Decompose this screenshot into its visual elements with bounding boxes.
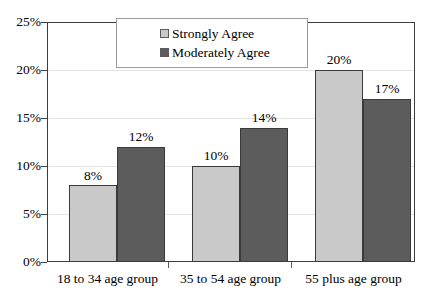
legend-item-moderately-agree[interactable]: Moderately Agree: [160, 43, 270, 62]
x-axis-tick-2: [291, 262, 292, 268]
x-axis: 18 to 34 age group 35 to 54 age group 55…: [47, 271, 415, 293]
bar-value-55plus-strongly-agree: 20%: [315, 53, 363, 67]
x-axis-label-18to34: 18 to 34 age group: [47, 271, 168, 287]
y-axis-label-25: 25%: [0, 15, 41, 29]
bar-value-18to34-moderately-agree: 12%: [117, 130, 165, 144]
bar-value-18to34-strongly-agree: 8%: [69, 169, 117, 183]
bar-value-35to54-strongly-agree: 10%: [192, 149, 240, 163]
bar-18to34-strongly-agree[interactable]: [69, 185, 117, 262]
bar-35to54-strongly-agree[interactable]: [192, 166, 240, 262]
y-axis-tick-0: [41, 262, 47, 263]
x-axis-tick-1: [168, 262, 169, 268]
legend-label-moderately-agree: Moderately Agree: [172, 46, 270, 60]
chart-title-remnant: [0, 0, 428, 8]
legend-swatch-icon-strongly-agree: [160, 29, 169, 38]
bar-value-35to54-moderately-agree: 14%: [240, 111, 288, 125]
x-axis-label-55plus: 55 plus age group: [293, 271, 414, 287]
legend-label-strongly-agree: Strongly Agree: [172, 27, 254, 41]
y-axis-label-15: 15%: [0, 111, 41, 125]
legend-item-strongly-agree[interactable]: Strongly Agree: [160, 24, 254, 43]
y-axis-label-0: 0%: [0, 255, 41, 269]
bar-35to54-moderately-agree[interactable]: [240, 128, 288, 262]
x-axis-label-35to54: 35 to 54 age group: [170, 271, 291, 287]
bar-55plus-moderately-agree[interactable]: [363, 99, 411, 262]
bar-value-55plus-moderately-agree: 17%: [363, 82, 411, 96]
legend-swatch-icon-moderately-agree: [160, 48, 169, 57]
y-axis-label-20: 20%: [0, 63, 41, 77]
bar-chart: 25% 20% 15% 10% 5% 0% 8% 12% 10% 14% 20%: [0, 0, 428, 295]
chart-legend: Strongly Agree Moderately Agree: [116, 18, 308, 68]
y-axis-label-5: 5%: [0, 207, 41, 221]
y-axis-label-10: 10%: [0, 159, 41, 173]
bar-18to34-moderately-agree[interactable]: [117, 147, 165, 262]
bar-55plus-strongly-agree[interactable]: [315, 70, 363, 262]
y-axis: 25% 20% 15% 10% 5% 0%: [0, 22, 41, 262]
